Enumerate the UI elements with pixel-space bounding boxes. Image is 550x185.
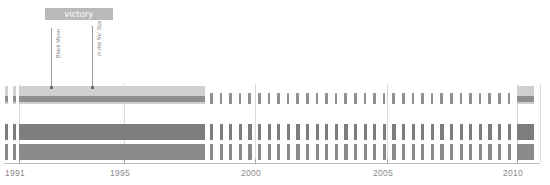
row-1-tick-25 [450, 93, 453, 104]
row-2-tick-28 [479, 124, 482, 140]
row-3-tick-6 [268, 144, 271, 160]
row-2-tick-26 [460, 124, 463, 140]
annotation-label-in-the-nu-star: In the Nu' Star [96, 20, 102, 56]
row-2-tick-8 [287, 124, 290, 140]
row-3-tick-10 [306, 144, 309, 160]
annotation-dot-in-the-nu-star [91, 86, 94, 89]
row-3-tick-2 [229, 144, 232, 160]
row-3-tick-24 [440, 144, 443, 160]
row-2-tick-31 [508, 124, 511, 140]
row-3-tick-16 [364, 144, 367, 160]
row-2-tick-14 [344, 124, 347, 140]
row-2-tick-0 [210, 124, 213, 140]
row-3-tick-25 [450, 144, 453, 160]
row-2-tick-20 [402, 124, 405, 140]
row-2-segment-2 [19, 124, 205, 140]
row-1-stripe-2 [19, 96, 205, 102]
row-2-tick-13 [335, 124, 338, 140]
row-3-tick-26 [460, 144, 463, 160]
row-1-tick-6 [268, 93, 271, 104]
row-3-tick-1 [220, 144, 223, 160]
row-1-tick-19 [392, 93, 395, 104]
row-2-tick-6 [268, 124, 271, 140]
row-2-tick-22 [421, 124, 424, 140]
row-1-tick-12 [325, 93, 328, 104]
row-2-tick-25 [450, 124, 453, 140]
axis-tick-3 [387, 159, 388, 164]
row-3-tick-15 [354, 144, 357, 160]
row-1-tick-30 [498, 93, 501, 104]
row-2 [0, 124, 550, 140]
chart-canvas: victory Black MoonIn the Nu' Star 199119… [0, 0, 550, 185]
row-2-tick-29 [488, 124, 491, 140]
row-1-tick-10 [306, 93, 309, 104]
row-1-tick-31 [508, 93, 511, 104]
row-1-tick-15 [354, 93, 357, 104]
row-1-tick-21 [412, 93, 415, 104]
row-1-tick-23 [431, 93, 434, 104]
row-3-tick-4 [248, 144, 251, 160]
row-3-segment-1 [13, 144, 16, 160]
row-2-tick-9 [296, 124, 299, 140]
row-1-tick-16 [364, 93, 367, 104]
row-1-tick-27 [469, 93, 472, 104]
row-3-tick-7 [277, 144, 280, 160]
row-3 [0, 144, 550, 160]
row-1-tick-26 [460, 93, 463, 104]
axis-tick-2 [255, 159, 256, 164]
row-3-tick-13 [335, 144, 338, 160]
row-1-tick-1 [220, 93, 223, 104]
row-2-tick-5 [258, 124, 261, 140]
row-3-tick-14 [344, 144, 347, 160]
row-3-tick-21 [412, 144, 415, 160]
row-2-segment-1 [13, 124, 16, 140]
row-2-tick-1 [220, 124, 223, 140]
axis-label-2005: 2005 [373, 168, 393, 178]
row-1-tick-20 [402, 93, 405, 104]
row-3-segment-2 [19, 144, 205, 160]
row-1-stripe-1 [13, 96, 16, 102]
row-3-tick-31 [508, 144, 511, 160]
row-1 [0, 86, 550, 104]
row-2-tick-2 [229, 124, 232, 140]
row-3-tick-28 [479, 144, 482, 160]
row-2-tick-12 [325, 124, 328, 140]
annotation-dot-black-moon [50, 86, 53, 89]
row-1-tick-24 [440, 93, 443, 104]
row-2-tick-18 [383, 124, 386, 140]
row-1-tick-11 [316, 93, 319, 104]
row-1-tick-22 [421, 93, 424, 104]
row-3-tick-18 [383, 144, 386, 160]
axis-label-2010: 2010 [503, 168, 523, 178]
row-3-tick-5 [258, 144, 261, 160]
row-2-tick-15 [354, 124, 357, 140]
row-1-tick-5 [258, 93, 261, 104]
row-3-tick-8 [287, 144, 290, 160]
axis-tick-1 [124, 159, 125, 164]
row-1-tick-14 [344, 93, 347, 104]
row-3-tick-22 [421, 144, 424, 160]
row-3-tick-27 [469, 144, 472, 160]
row-2-tick-30 [498, 124, 501, 140]
annotation-stem-black-moon [51, 28, 52, 88]
row-1-end-block-stripe [517, 96, 534, 102]
axis-tick-4 [517, 159, 518, 164]
row-1-tick-7 [277, 93, 280, 104]
row-2-end-block [517, 124, 534, 140]
row-1-tick-4 [248, 93, 251, 104]
axis-label-1991: 1991 [5, 168, 25, 178]
victory-banner: victory [45, 8, 113, 20]
row-2-tick-16 [364, 124, 367, 140]
row-3-tick-12 [325, 144, 328, 160]
row-1-tick-18 [383, 93, 386, 104]
row-2-segment-0 [5, 124, 8, 140]
row-2-tick-23 [431, 124, 434, 140]
axis-label-2000: 2000 [241, 168, 261, 178]
axis-line [4, 163, 540, 164]
row-2-tick-21 [412, 124, 415, 140]
row-1-stripe-0 [5, 96, 8, 102]
row-3-tick-30 [498, 144, 501, 160]
row-1-tick-0 [210, 93, 213, 104]
row-2-tick-19 [392, 124, 395, 140]
row-3-tick-29 [488, 144, 491, 160]
